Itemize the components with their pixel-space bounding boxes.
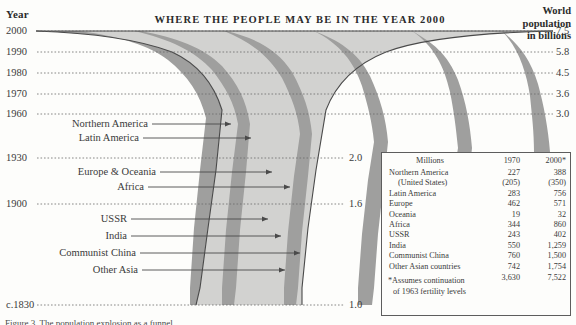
table-row: India5501,259 xyxy=(382,241,570,251)
year-tick-1830: c.1830 xyxy=(6,299,34,310)
year-tick-2000: 2000 xyxy=(6,25,27,36)
year-tick-1980: 1980 xyxy=(6,67,27,78)
table-cell-2000: 1,500 xyxy=(524,251,570,261)
table-cell-1970: 243 xyxy=(478,230,524,240)
table-cell-2000: 1,754 xyxy=(524,262,570,272)
table-header-millions: Millions xyxy=(382,156,478,168)
right-axis-title-line1: World xyxy=(461,5,571,18)
table-cell-1970: 742 xyxy=(478,262,524,272)
table-cell-1970: 760 xyxy=(478,251,524,261)
figure-caption: Figure 3. The population explosion as a … xyxy=(5,318,173,325)
table-cell-1970: 283 xyxy=(478,189,524,199)
table-cell-region: Northern America xyxy=(382,168,478,178)
table-row: Northern America227388 xyxy=(382,168,570,178)
table-row: Oceania1932 xyxy=(382,210,570,220)
table-cell-1970: 550 xyxy=(478,241,524,251)
table-row: Europe462571 xyxy=(382,199,570,209)
table-cell-1970: 3,630 xyxy=(478,272,524,283)
year-tick-1930: 1930 xyxy=(6,152,27,163)
table: Millions 1970 2000* Northern America2273… xyxy=(382,156,570,283)
callout-label-india: India xyxy=(0,230,127,241)
table-cell-region: (United States) xyxy=(382,178,478,188)
table-cell-region: Europe xyxy=(382,199,478,209)
table-row: Latin America283756 xyxy=(382,189,570,199)
table-cell-region: USSR xyxy=(382,230,478,240)
value-tick-3-6: 3.6 xyxy=(556,88,569,99)
value-tick-4-5: 4.5 xyxy=(556,67,569,78)
table-cell-2000: 756 xyxy=(524,189,570,199)
year-tick-1990: 1990 xyxy=(6,46,27,57)
table-cell-2000: 860 xyxy=(524,220,570,230)
value-tick-2-0: 2.0 xyxy=(349,152,362,163)
table-cell-region: Other Asian countries xyxy=(382,262,478,272)
callout-label-africa: Africa xyxy=(0,181,144,192)
callout-label-northern-america: Northern America xyxy=(0,118,148,129)
callout-label-ussr: USSR xyxy=(0,213,127,224)
table-cell-2000: 388 xyxy=(524,168,570,178)
table-cell-region: Latin America xyxy=(382,189,478,199)
year-tick-1970: 1970 xyxy=(6,88,27,99)
table-row: Other Asian countries7421,754 xyxy=(382,262,570,272)
table-cell-1970: 344 xyxy=(478,220,524,230)
table-row: Africa344860 xyxy=(382,220,570,230)
callout-label-communist-china: Communist China xyxy=(0,247,136,258)
figure-canvas: Year WHERE THE PEOPLE MAY BE IN THE YEAR… xyxy=(0,0,576,325)
table-cell-2000: 32 xyxy=(524,210,570,220)
table-cell-1970: (205) xyxy=(478,178,524,188)
table-cell-2000: 7,522 xyxy=(524,272,570,283)
table-footnote: *Assumes continuation of 1963 fertility … xyxy=(388,276,466,297)
right-axis-title: World population in billions xyxy=(461,5,571,43)
right-axis-title-line3: in billions xyxy=(461,30,571,43)
table-cell-region: Oceania xyxy=(382,210,478,220)
year-axis-title: Year xyxy=(6,8,29,20)
table-cell-1970: 462 xyxy=(478,199,524,209)
page-title: WHERE THE PEOPLE MAY BE IN THE YEAR 2000 xyxy=(150,14,450,25)
table-cell-region: India xyxy=(382,241,478,251)
table-cell-2000: 571 xyxy=(524,199,570,209)
table-cell-2000: 402 xyxy=(524,230,570,240)
right-axis-title-line2: population xyxy=(461,18,571,31)
footnote-line-2: of 1963 fertility levels xyxy=(388,287,466,298)
table-header-2000: 2000* xyxy=(524,156,570,168)
value-tick-3-0: 3.0 xyxy=(556,108,569,119)
table-body: Northern America227388(United States)(20… xyxy=(382,168,570,283)
value-tick-5-8: 5.8 xyxy=(556,46,569,57)
table-cell-2000: 1,259 xyxy=(524,241,570,251)
table-row: Communist China7601,500 xyxy=(382,251,570,261)
callout-label-europe-oceania: Europe & Oceania xyxy=(0,166,156,177)
table-row: (United States)(205)(350) xyxy=(382,178,570,188)
value-tick-1-0: 1.0 xyxy=(349,299,362,310)
callout-label-latin-america: Latin America xyxy=(0,132,139,143)
value-tick-7-5: 7.5 xyxy=(556,25,569,36)
table-cell-region: Africa xyxy=(382,220,478,230)
footnote-line-1: *Assumes continuation xyxy=(388,276,466,287)
table-header-row: Millions 1970 2000* xyxy=(382,156,570,168)
table-cell-2000: (350) xyxy=(524,178,570,188)
callout-label-other-asia: Other Asia xyxy=(0,264,138,275)
table-cell-1970: 227 xyxy=(478,168,524,178)
table-cell-region: Communist China xyxy=(382,251,478,261)
table-header-1970: 1970 xyxy=(478,156,524,168)
table-cell-1970: 19 xyxy=(478,210,524,220)
value-tick-1-6: 1.6 xyxy=(349,198,362,209)
table-row: USSR243402 xyxy=(382,230,570,240)
year-tick-1900: 1900 xyxy=(6,198,27,209)
